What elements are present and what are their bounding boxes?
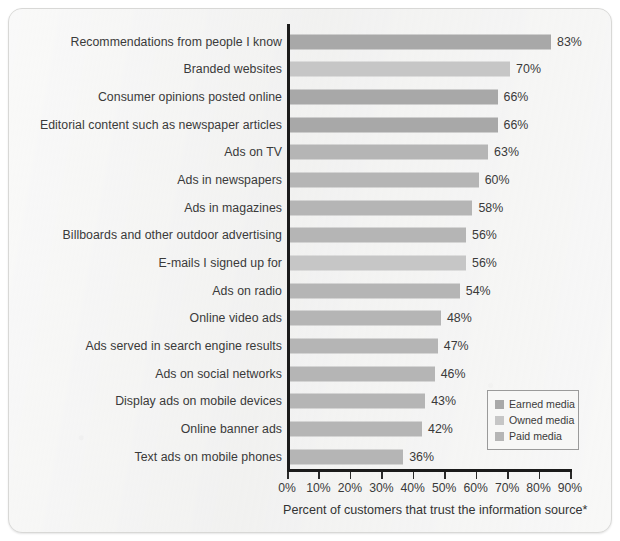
- chart-legend: Earned mediaOwned mediaPaid media: [487, 390, 579, 450]
- x-axis-tick: [444, 472, 446, 479]
- bar-row: Ads on radio54%: [0, 277, 620, 305]
- legend-label: Earned media: [509, 398, 575, 410]
- legend-item-paid: Paid media: [495, 429, 571, 443]
- bar-value-label: 46%: [441, 367, 466, 381]
- bar-rows-container: Recommendations from people I know83%Bra…: [0, 0, 620, 445]
- bar-value-label: 58%: [478, 201, 503, 215]
- bar-row: Billboards and other outdoor advertising…: [0, 222, 620, 250]
- bar-row: Branded websites70%: [0, 56, 620, 84]
- bar: [290, 34, 551, 49]
- bar: [290, 394, 425, 409]
- bar-value-label: 63%: [494, 145, 519, 159]
- x-axis-tick-label: 80%: [526, 481, 550, 495]
- x-axis-tick: [570, 472, 572, 479]
- legend-item-owned: Owned media: [495, 413, 571, 427]
- category-label: Consumer opinions posted online: [98, 90, 282, 104]
- bar-value-label: 48%: [447, 311, 472, 325]
- category-label: Display ads on mobile devices: [115, 394, 282, 408]
- category-label: Ads on social networks: [155, 367, 282, 381]
- bar: [290, 449, 403, 464]
- category-label: Branded websites: [183, 62, 282, 76]
- bar-row: Ads on TV63%: [0, 139, 620, 167]
- bar: [290, 90, 498, 105]
- category-label: Ads in magazines: [184, 201, 282, 215]
- legend-swatch-icon: [495, 400, 504, 409]
- bar-row: Online video ads48%: [0, 305, 620, 333]
- x-axis-tick-labels: 0%10%20%30%40%50%60%70%80%90%: [0, 481, 620, 499]
- bar-value-label: 56%: [472, 228, 497, 242]
- x-axis-tick-label: 30%: [369, 481, 393, 495]
- bar: [290, 117, 498, 132]
- bar-row: Consumer opinions posted online66%: [0, 83, 620, 111]
- x-axis-tick-label: 70%: [495, 481, 519, 495]
- category-label: Ads on radio: [212, 284, 282, 298]
- bar: [290, 145, 488, 160]
- x-axis-tick-label: 90%: [558, 481, 582, 495]
- bar: [290, 173, 479, 188]
- bar: [290, 228, 466, 243]
- x-axis-tick: [318, 472, 320, 479]
- bar: [290, 311, 441, 326]
- bar: [290, 255, 466, 270]
- bar-row: Recommendations from people I know83%: [0, 28, 620, 56]
- bar-value-label: 66%: [504, 118, 529, 132]
- bar-value-label: 47%: [444, 339, 469, 353]
- category-label: Recommendations from people I know: [70, 35, 282, 49]
- x-axis-tick-label: 20%: [338, 481, 362, 495]
- bar-row: Editorial content such as newspaper arti…: [0, 111, 620, 139]
- legend-label: Paid media: [509, 430, 562, 442]
- x-axis-tick: [350, 472, 352, 479]
- bar-row: Ads in newspapers60%: [0, 166, 620, 194]
- category-label: Ads served in search engine results: [85, 339, 282, 353]
- bar-value-label: 54%: [466, 284, 491, 298]
- bar: [290, 421, 422, 436]
- bar: [290, 366, 435, 381]
- bar-value-label: 43%: [431, 394, 456, 408]
- bar-row: Ads served in search engine results47%: [0, 332, 620, 360]
- category-label: Editorial content such as newspaper arti…: [40, 118, 282, 132]
- category-label: Ads on TV: [224, 145, 282, 159]
- x-axis-tick-label: 10%: [306, 481, 330, 495]
- chart-figure: Recommendations from people I know83%Bra…: [0, 0, 620, 541]
- bar-row: Ads on social networks46%: [0, 360, 620, 388]
- bar: [290, 200, 472, 215]
- x-axis-tick: [476, 472, 478, 479]
- category-label: E-mails I signed up for: [159, 256, 283, 270]
- bar-value-label: 42%: [428, 422, 453, 436]
- x-axis-tick: [413, 472, 415, 479]
- bar-row: E-mails I signed up for56%: [0, 249, 620, 277]
- legend-item-earned: Earned media: [495, 397, 571, 411]
- bar-value-label: 60%: [485, 173, 510, 187]
- x-axis-ticks: [287, 472, 572, 480]
- bar-value-label: 56%: [472, 256, 497, 270]
- bar-value-label: 70%: [516, 62, 541, 76]
- category-label: Online banner ads: [181, 422, 282, 436]
- bar: [290, 283, 460, 298]
- x-axis-tick-label: 40%: [401, 481, 425, 495]
- bar: [290, 338, 438, 353]
- x-axis-tick: [287, 472, 289, 479]
- x-axis-tick: [507, 472, 509, 479]
- bar: [290, 62, 510, 77]
- x-axis-tick-label: 60%: [463, 481, 487, 495]
- legend-label: Owned media: [509, 414, 574, 426]
- legend-swatch-icon: [495, 416, 504, 425]
- x-axis-title: Percent of customers that trust the info…: [283, 503, 568, 517]
- x-axis-tick: [381, 472, 383, 479]
- category-label: Text ads on mobile phones: [134, 450, 282, 464]
- x-axis-tick-label: 0%: [278, 481, 296, 495]
- category-label: Billboards and other outdoor advertising: [63, 228, 282, 242]
- category-label: Ads in newspapers: [177, 173, 282, 187]
- bar-value-label: 66%: [504, 90, 529, 104]
- category-label: Online video ads: [190, 311, 282, 325]
- bar-value-label: 83%: [557, 35, 582, 49]
- bar-row: Ads in magazines58%: [0, 194, 620, 222]
- x-axis-tick-label: 50%: [432, 481, 456, 495]
- bar-value-label: 36%: [409, 450, 434, 464]
- legend-swatch-icon: [495, 432, 504, 441]
- x-axis-tick: [539, 472, 541, 479]
